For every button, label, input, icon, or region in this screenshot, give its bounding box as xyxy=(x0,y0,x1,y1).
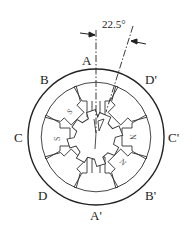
stepper-motor-diagram: 22.5° A B D' C C' D B' A' S S N N xyxy=(0,0,192,236)
angle-label: 22.5° xyxy=(102,18,126,30)
pole-mark-n-lower-right: N xyxy=(118,157,129,168)
pole-mark-n-right: N xyxy=(128,134,137,140)
label-b-prime: B' xyxy=(145,188,156,203)
label-c: C xyxy=(14,130,23,145)
label-c-prime: C' xyxy=(168,130,179,145)
pole-mark-s-upper-left: S xyxy=(65,107,75,117)
label-a: A xyxy=(82,53,92,68)
dimension-arrows xyxy=(80,32,146,44)
label-d-prime: D' xyxy=(145,72,157,87)
label-a-prime: A' xyxy=(90,208,102,223)
label-d: D xyxy=(38,188,47,203)
label-b: B xyxy=(40,72,49,87)
pole-mark-s-left: S xyxy=(53,137,62,141)
centerline-tilted xyxy=(106,26,133,112)
